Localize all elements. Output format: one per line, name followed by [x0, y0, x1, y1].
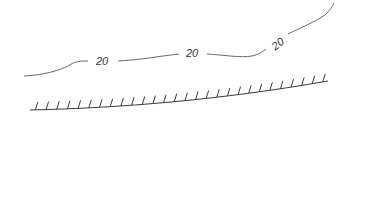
- embankment-tick: [217, 89, 220, 97]
- embankment-tick: [164, 95, 167, 103]
- embankment-tick: [121, 98, 124, 106]
- embankment-tick: [323, 74, 326, 82]
- contour-segment-4: [288, 3, 334, 34]
- embankment-tick: [100, 99, 103, 107]
- embankment-tick: [142, 96, 145, 104]
- embankment-line: [30, 74, 328, 110]
- embankment-tick: [57, 101, 60, 109]
- embankment-tick: [227, 88, 230, 96]
- embankment-tick: [249, 85, 252, 93]
- embankment-tick: [270, 82, 273, 90]
- embankment-tick: [280, 81, 283, 89]
- embankment-tick: [174, 94, 177, 102]
- embankment-tick: [185, 93, 188, 101]
- embankment-tick: [291, 79, 294, 87]
- embankment-tick: [302, 77, 305, 85]
- embankment-tick: [46, 102, 49, 110]
- embankment-tick: [238, 87, 241, 95]
- contour-segment-3: [207, 49, 266, 57]
- embankment-tick: [89, 100, 92, 108]
- embankment-tick: [35, 102, 38, 110]
- contour-segment-1: [24, 61, 88, 76]
- contour-line: 20 20 20: [24, 3, 334, 76]
- embankment-tick: [132, 97, 135, 105]
- embankment-tick: [67, 101, 70, 109]
- embankment-tick: [206, 90, 209, 98]
- contour-label-2: 20: [185, 47, 199, 59]
- embankment-tick: [259, 84, 262, 92]
- map-canvas: 20 20 20: [0, 0, 381, 200]
- embankment-baseline: [30, 81, 328, 110]
- embankment-tick: [78, 100, 81, 108]
- embankment-tick: [153, 96, 156, 104]
- contour-label-1: 20: [95, 55, 109, 67]
- contour-label-3: 20: [268, 35, 287, 53]
- embankment-tick: [196, 92, 199, 100]
- embankment-tick: [110, 99, 113, 107]
- contour-segment-2: [118, 54, 179, 61]
- embankment-tick: [312, 76, 315, 84]
